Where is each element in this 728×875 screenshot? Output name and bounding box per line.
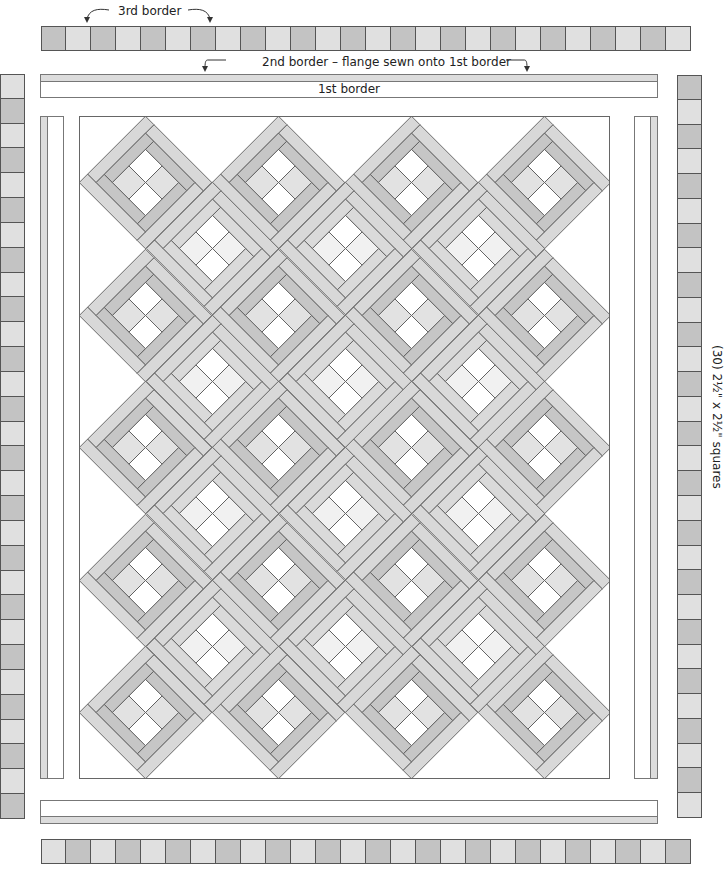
border-square [677, 521, 702, 546]
border-square [0, 571, 25, 596]
border-square [677, 694, 702, 719]
border-square [216, 26, 241, 51]
border-square [677, 372, 702, 397]
first-border-right [634, 116, 651, 779]
border-square [0, 372, 25, 397]
border-square [0, 794, 25, 819]
border-square [677, 347, 702, 372]
border-square [141, 839, 166, 864]
border-square [677, 397, 702, 422]
border-square [677, 323, 702, 348]
border-square [441, 26, 466, 51]
third-border-right [677, 75, 702, 818]
border-square [41, 26, 66, 51]
border-square [677, 199, 702, 224]
border-square [677, 273, 702, 298]
curved-arrow-right-icon [504, 56, 534, 76]
border-square [0, 546, 25, 571]
border-square [191, 839, 216, 864]
border-square [366, 839, 391, 864]
border-square [216, 839, 241, 864]
border-square [466, 26, 491, 51]
border-square [0, 471, 25, 496]
border-square [66, 839, 91, 864]
border-square [0, 595, 25, 620]
third-border-top [41, 26, 691, 51]
second-border-flange-right [650, 116, 658, 779]
border-square [491, 839, 516, 864]
border-square [0, 124, 25, 149]
border-square [677, 298, 702, 323]
border-square [441, 839, 466, 864]
border-square [516, 26, 541, 51]
border-square [0, 446, 25, 471]
border-square [666, 26, 691, 51]
border-square [677, 100, 702, 125]
border-square [0, 297, 25, 322]
border-square [0, 695, 25, 720]
border-square [677, 125, 702, 150]
border-square [91, 26, 116, 51]
border-square [416, 839, 441, 864]
border-square [0, 620, 25, 645]
border-square [391, 839, 416, 864]
curved-arrow-left-icon [83, 4, 113, 24]
border-square [677, 768, 702, 793]
border-square [341, 839, 366, 864]
border-square [677, 669, 702, 694]
border-square [0, 322, 25, 347]
border-square [0, 422, 25, 447]
border-square [677, 793, 702, 818]
border-square [591, 26, 616, 51]
border-square [91, 839, 116, 864]
border-square [266, 26, 291, 51]
squares-count-note: (30) 2½" x 2½" squares [710, 345, 724, 489]
border-square [116, 839, 141, 864]
border-square [677, 224, 702, 249]
curved-arrow-right-icon [186, 4, 216, 24]
border-square [677, 248, 702, 273]
border-square [677, 496, 702, 521]
border-square [677, 149, 702, 174]
border-square [0, 769, 25, 794]
border-square [591, 839, 616, 864]
second-border-flange-bottom [40, 816, 658, 824]
border-square [641, 26, 666, 51]
border-square [0, 99, 25, 124]
border-square [66, 26, 91, 51]
border-square [116, 26, 141, 51]
border-square [291, 839, 316, 864]
border-square [677, 570, 702, 595]
quilt-center [79, 116, 610, 779]
border-square [0, 198, 25, 223]
curved-arrow-left-icon [200, 56, 230, 76]
border-square [466, 839, 491, 864]
border-square [166, 839, 191, 864]
border-square [616, 26, 641, 51]
border-square [677, 471, 702, 496]
border-square [0, 223, 25, 248]
border-square [491, 26, 516, 51]
border-square [677, 744, 702, 769]
border-square [677, 174, 702, 199]
border-square [141, 26, 166, 51]
second-border-label: 2nd border – flange sewn onto 1st border [262, 55, 511, 69]
border-square [0, 74, 25, 99]
border-square [241, 26, 266, 51]
border-square [0, 744, 25, 769]
border-square [666, 839, 691, 864]
border-square [266, 839, 291, 864]
border-square [0, 173, 25, 198]
border-square [0, 148, 25, 173]
border-square [241, 839, 266, 864]
border-square [541, 839, 566, 864]
border-square [0, 670, 25, 695]
border-square [0, 248, 25, 273]
border-square [416, 26, 441, 51]
first-border-label: 1st border [40, 81, 658, 98]
border-square [291, 26, 316, 51]
first-border-left [47, 116, 64, 779]
third-border-bottom [41, 839, 691, 864]
border-square [616, 839, 641, 864]
border-square [0, 273, 25, 298]
